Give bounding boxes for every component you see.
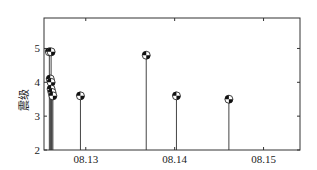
beachball-markers — [45, 48, 233, 103]
beachball-icon — [172, 92, 180, 100]
x-tick-label: 08.14 — [162, 153, 187, 165]
beachball-icon — [76, 92, 84, 100]
stem-lines — [49, 52, 229, 150]
y-tick-label: 3 — [35, 110, 41, 122]
y-tick-label: 4 — [35, 76, 41, 88]
beachball-icon — [225, 95, 233, 103]
x-tick-label: 08.15 — [251, 153, 276, 165]
y-axis: 2345 — [35, 42, 301, 156]
y-tick-label: 2 — [35, 144, 41, 156]
beachball-icon — [142, 51, 150, 59]
beachball-icon — [47, 48, 55, 56]
beachball-icon — [49, 92, 57, 100]
x-tick-label: 08.13 — [73, 153, 98, 165]
y-axis-label: 震级 — [18, 89, 31, 111]
magnitude-time-chart: 2345 08.1308.1408.15 震级 — [0, 0, 317, 170]
y-tick-label: 5 — [35, 42, 41, 54]
plot-frame — [44, 18, 300, 150]
x-axis: 08.1308.1408.15 — [73, 18, 276, 165]
